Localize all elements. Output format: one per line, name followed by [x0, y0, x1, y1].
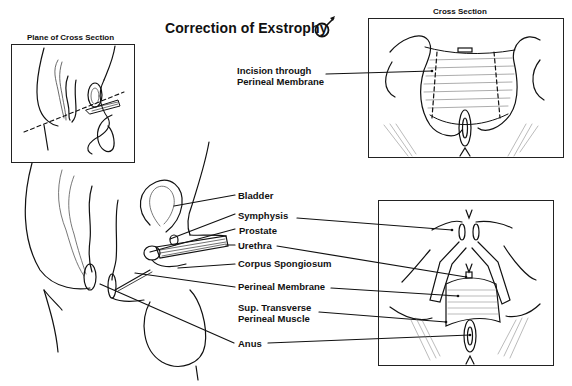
cross-section-inset	[368, 18, 564, 158]
label-symphysis: Symphysis	[238, 210, 288, 221]
diagram-title: Correction of Exstrophy	[165, 20, 328, 36]
label-anus: Anus	[238, 338, 262, 349]
label-perineal-membrane: Perineal Membrane	[238, 281, 325, 292]
perineal-view-inset	[378, 200, 554, 366]
plane-of-cross-section-inset	[11, 44, 135, 163]
label-incision-through-perineal-membrane: Incision through Perineal Membrane	[237, 65, 324, 87]
label-line: Sup. Transverse	[238, 302, 311, 313]
label-urethra: Urethra	[238, 240, 272, 251]
label-bladder: Bladder	[238, 190, 273, 201]
label-line: Perineal Muscle	[238, 313, 311, 324]
label-corpus-spongiosum: Corpus Spongiosum	[238, 258, 331, 269]
label-prostate: Prostate	[239, 225, 277, 236]
cross-section-caption: Cross Section	[433, 7, 487, 16]
label-line: Incision through	[237, 65, 324, 76]
label-line: Perineal Membrane	[237, 76, 324, 87]
plane-caption: Plane of Cross Section	[27, 33, 114, 42]
title-text: Correction of Exstrophy	[165, 20, 328, 36]
label-sup-transverse-perineal-muscle: Sup. Transverse Perineal Muscle	[238, 302, 311, 324]
